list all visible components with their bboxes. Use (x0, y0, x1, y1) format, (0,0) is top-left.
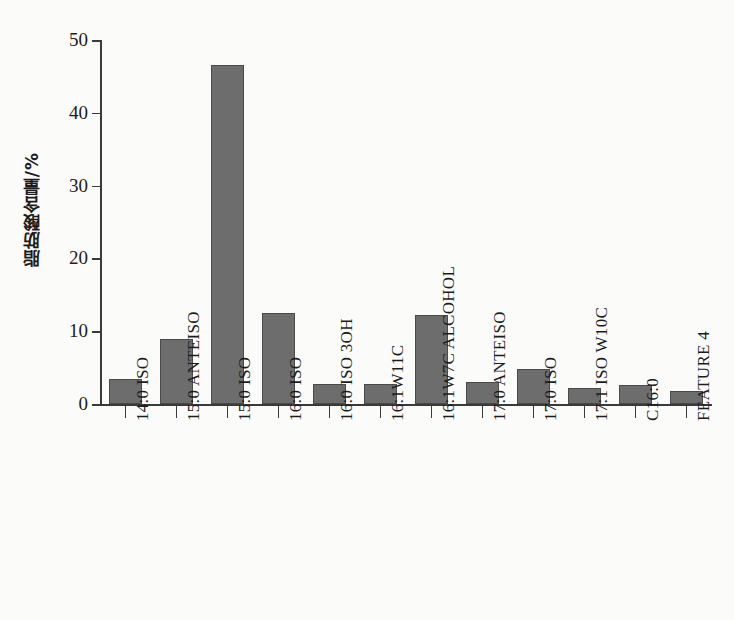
y-tick-label: 0 (79, 393, 89, 415)
x-tick-mark (380, 405, 382, 418)
y-tick-mark (92, 258, 100, 260)
x-tick-label: 16:1W7C ALCOHOL (439, 266, 459, 421)
bar-chart-figure: 脂肪酸含量/% 01020304050 14:0 ISO15:0 ANTEISO… (0, 0, 734, 620)
y-tick-mark (92, 40, 100, 42)
x-tick-mark (482, 405, 484, 418)
x-tick-label: 17:0 ANTEISO (490, 311, 510, 421)
x-tick-mark (125, 405, 127, 418)
y-tick-mark (92, 404, 100, 406)
x-tick-label: 17:0 ISO (541, 357, 561, 421)
x-tick-mark (584, 405, 586, 418)
x-tick-label: 14:0 ISO (133, 357, 153, 421)
y-tick-label: 10 (69, 320, 88, 342)
bar (211, 65, 244, 404)
x-tick-mark (686, 405, 688, 418)
x-tick-mark (227, 405, 229, 418)
y-tick-mark (92, 186, 100, 188)
x-tick-label: 15:0 ANTEISO (184, 311, 204, 421)
x-tick-mark (278, 405, 280, 418)
y-tick-mark (92, 331, 100, 333)
y-axis-line (100, 40, 102, 404)
x-tick-mark (431, 405, 433, 418)
y-tick-label: 40 (69, 102, 88, 124)
x-tick-mark (329, 405, 331, 418)
x-tick-label: 17:1 ISO W10C (592, 307, 612, 421)
x-tick-mark (533, 405, 535, 418)
x-tick-label: 16:0 ISO 3OH (337, 318, 357, 421)
y-axis-title: 脂肪酸含量/% (19, 152, 44, 267)
x-tick-label: FEATURE 4 (694, 331, 714, 421)
x-tick-label: 16:1W11C (388, 345, 408, 421)
y-tick-label: 20 (69, 247, 88, 269)
y-tick-label: 30 (69, 175, 88, 197)
x-tick-label: 15:0 ISO (235, 357, 255, 421)
y-axis-title-container: 脂肪酸含量/% (14, 0, 48, 420)
x-tick-mark (176, 405, 178, 418)
x-tick-label: C16:0 (643, 378, 663, 421)
x-tick-mark (635, 405, 637, 418)
y-tick-label: 50 (69, 29, 88, 51)
x-tick-label: 16:0 ISO (286, 357, 306, 421)
y-tick-mark (92, 113, 100, 115)
